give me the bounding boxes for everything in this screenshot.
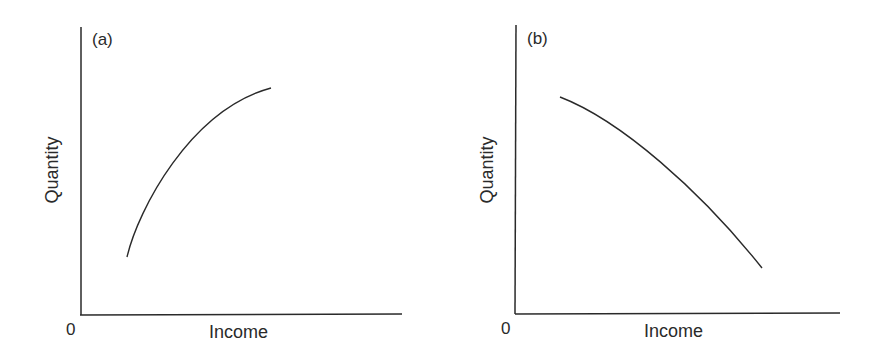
y-axis-label-b: Quantity xyxy=(478,134,496,206)
panel-label-b: (b) xyxy=(527,30,548,47)
curve-b xyxy=(560,97,762,268)
plot-area-b xyxy=(437,0,875,359)
y-axis-label-a: Quantity xyxy=(43,134,61,206)
panel-label-a: (a) xyxy=(92,31,113,48)
x-axis-b xyxy=(515,313,840,314)
y-axis-b xyxy=(515,25,516,314)
x-axis-label-b: Income xyxy=(644,322,703,340)
curve-a xyxy=(127,88,271,257)
x-axis-label-a: Income xyxy=(209,323,268,341)
origin-label-a: 0 xyxy=(66,321,75,338)
chart-panel-a: (a) 0 Income Quantity xyxy=(0,0,437,359)
plot-area-a xyxy=(0,0,437,359)
x-axis-a xyxy=(80,314,402,315)
origin-label-b: 0 xyxy=(501,320,510,337)
chart-panel-b: (b) 0 Income Quantity xyxy=(437,0,875,359)
